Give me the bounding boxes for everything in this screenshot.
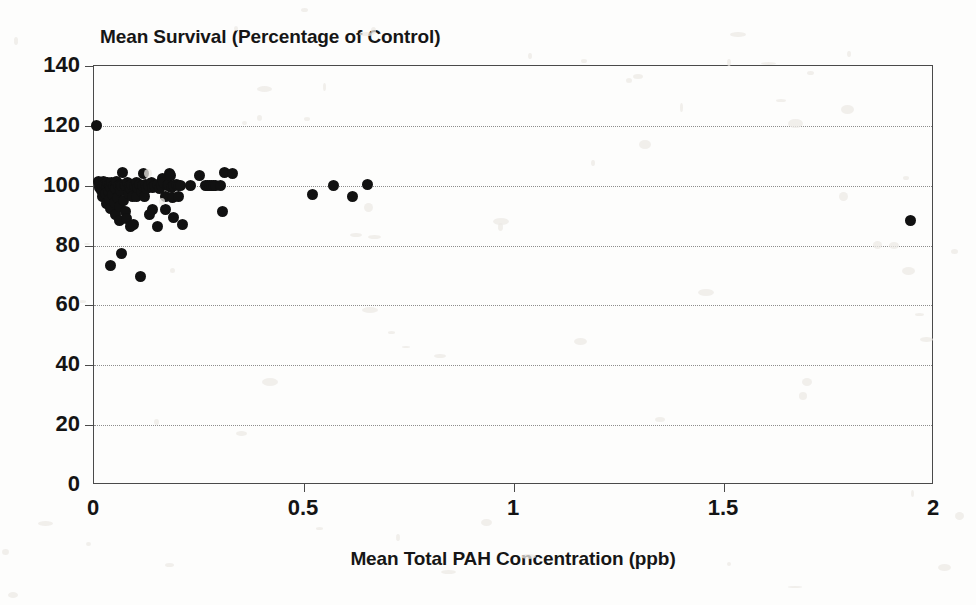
scan-artifact <box>234 26 238 31</box>
scatter-point <box>328 180 339 191</box>
scan-artifact <box>368 235 381 239</box>
gridline <box>94 246 932 247</box>
y-axis-tick-label: 140 <box>43 54 80 76</box>
scan-artifact <box>8 592 18 598</box>
scan-artifact <box>144 169 152 178</box>
scan-artifact <box>802 378 812 386</box>
y-axis-tick-label: 0 <box>68 473 80 495</box>
scan-artifact <box>873 241 882 249</box>
scan-artifact <box>528 53 532 59</box>
y-axis-tick-labels: 020406080100120140 <box>0 65 80 484</box>
scan-artifact <box>364 203 373 212</box>
scan-artifact <box>591 160 595 166</box>
y-axis-tick <box>85 246 94 247</box>
x-axis-tick-label: 2 <box>927 497 939 519</box>
scan-artifact <box>79 300 86 303</box>
scan-artifact <box>951 249 958 254</box>
scan-artifact <box>639 140 651 149</box>
scan-artifact <box>304 117 310 121</box>
x-axis-tick-label: 0 <box>87 497 99 519</box>
y-axis-tick-label: 80 <box>56 234 80 256</box>
scatter-point <box>116 248 127 259</box>
y-axis-tick-label: 20 <box>56 413 80 435</box>
scan-artifact <box>788 586 802 588</box>
x-axis-title: Mean Total PAH Concentration (ppb) <box>93 548 933 570</box>
x-axis-tick <box>724 483 725 492</box>
scan-artifact <box>730 32 746 37</box>
scan-artifact <box>159 198 165 205</box>
scatter-point <box>128 219 139 230</box>
y-axis-tick-label: 60 <box>56 293 80 315</box>
x-axis-tick-label: 1 <box>507 497 519 519</box>
gridline <box>94 425 932 426</box>
scan-artifact <box>493 218 509 225</box>
x-axis-tick-label: 1.5 <box>708 497 739 519</box>
scan-artifact <box>350 233 362 237</box>
scatter-point <box>227 168 238 179</box>
scan-artifact <box>301 8 308 12</box>
x-axis-tick <box>514 483 515 492</box>
gridline <box>94 365 932 366</box>
scan-artifact <box>38 521 53 526</box>
scatter-point <box>185 180 196 191</box>
scan-artifact <box>911 490 914 497</box>
scatter-point <box>152 221 163 232</box>
scan-artifact <box>257 86 272 92</box>
y-axis-tick-label: 40 <box>56 353 80 375</box>
chart-title: Mean Survival (Percentage of Control) <box>100 26 440 48</box>
x-axis-tick-labels: 00.511.52 <box>93 497 933 527</box>
scan-artifact <box>655 417 665 422</box>
scan-artifact <box>955 512 964 520</box>
scan-artifact <box>761 62 776 65</box>
scan-artifact <box>727 59 731 66</box>
scan-artifact <box>920 337 933 342</box>
scatter-point <box>217 206 228 217</box>
scan-artifact <box>14 37 18 45</box>
scan-artifact <box>402 346 410 348</box>
scan-artifact <box>323 83 326 91</box>
scan-artifact <box>316 527 323 530</box>
y-axis-tick <box>85 425 94 426</box>
scan-artifact <box>396 534 400 541</box>
scan-artifact <box>521 554 536 559</box>
scan-artifact <box>165 563 174 567</box>
x-axis-tick <box>304 483 305 492</box>
scatter-point <box>362 179 373 190</box>
scan-artifact <box>481 519 492 526</box>
x-axis-tick-label: 0.5 <box>288 497 319 519</box>
scan-artifact <box>841 105 854 114</box>
scan-artifact <box>84 243 90 245</box>
scan-artifact <box>581 59 587 63</box>
scan-artifact <box>902 267 915 275</box>
scan-artifact <box>371 27 376 34</box>
gridline <box>94 126 932 127</box>
scatter-point <box>307 189 318 200</box>
scan-artifact <box>236 431 247 436</box>
scatter-point <box>173 191 184 202</box>
scatter-point <box>905 215 916 226</box>
y-axis-tick-label: 100 <box>43 174 80 196</box>
scan-artifact <box>362 307 378 313</box>
scan-artifact <box>154 419 159 425</box>
scan-artifact <box>727 562 731 566</box>
scan-artifact <box>441 570 456 574</box>
scan-artifact <box>626 78 632 83</box>
scan-artifact <box>257 115 262 121</box>
scan-artifact <box>242 121 247 125</box>
scan-artifact <box>680 103 683 112</box>
scatter-point <box>215 180 226 191</box>
scan-artifact <box>698 289 714 296</box>
scatter-point <box>117 167 128 178</box>
gridline <box>94 305 932 306</box>
scatter-point <box>91 120 102 131</box>
scatter-point <box>347 191 358 202</box>
chart-figure: Mean Survival (Percentage of Control) 02… <box>0 0 976 605</box>
scatter-point <box>135 271 146 282</box>
scan-artifact <box>86 542 91 546</box>
scan-artifact <box>262 378 278 386</box>
scan-artifact <box>170 268 175 273</box>
scan-artifact <box>434 354 446 358</box>
scatter-point <box>177 219 188 230</box>
scan-artifact <box>938 564 951 571</box>
scatter-point <box>105 260 116 271</box>
